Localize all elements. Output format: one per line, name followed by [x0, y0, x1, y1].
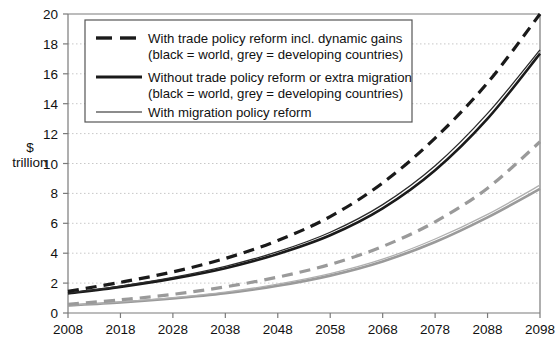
x-tick-label-2048: 2048 [263, 322, 293, 337]
legend-label-migration-reform: With migration policy reform [148, 105, 311, 120]
x-tick-label-2008: 2008 [53, 322, 83, 337]
y-tick-label-8: 8 [50, 186, 58, 201]
y-axis-title-line2: trillion [12, 155, 47, 170]
y-tick-label-16: 16 [43, 67, 58, 82]
x-tick-label-2068: 2068 [368, 322, 398, 337]
legend-label-trade-reform-line1: With trade policy reform incl. dynamic g… [148, 31, 403, 46]
chart-legend: With trade policy reform incl. dynamic g… [85, 20, 412, 122]
x-tick-label-2098: 2098 [525, 322, 555, 337]
x-tick-label-2058: 2058 [315, 322, 345, 337]
y-tick-label-20: 20 [43, 7, 58, 22]
legend-label-trade-reform-line2: (black = world, grey = developing countr… [148, 47, 403, 62]
y-axis-title-line1: $ [26, 140, 34, 155]
y-tick-label-2: 2 [50, 276, 58, 291]
y-tick-label-18: 18 [43, 37, 58, 52]
y-tick-label-12: 12 [43, 127, 58, 142]
y-tick-label-6: 6 [50, 216, 58, 231]
y-tick-label-4: 4 [50, 246, 58, 261]
chart-container: 02468101214161820 2008201820282038204820… [0, 0, 556, 340]
y-tick-label-14: 14 [43, 97, 59, 112]
x-tick-label-2028: 2028 [158, 322, 188, 337]
x-tick-label-2078: 2078 [420, 322, 450, 337]
line-chart: 02468101214161820 2008201820282038204820… [0, 0, 556, 340]
x-tick-label-2038: 2038 [210, 322, 240, 337]
legend-label-no-reform-line2: (black = world, grey = developing countr… [148, 86, 403, 101]
x-tick-label-2088: 2088 [473, 322, 503, 337]
y-tick-label-0: 0 [50, 306, 58, 321]
legend-label-no-reform-line1: Without trade policy reform or extra mig… [148, 70, 412, 85]
x-tick-label-2018: 2018 [105, 322, 135, 337]
